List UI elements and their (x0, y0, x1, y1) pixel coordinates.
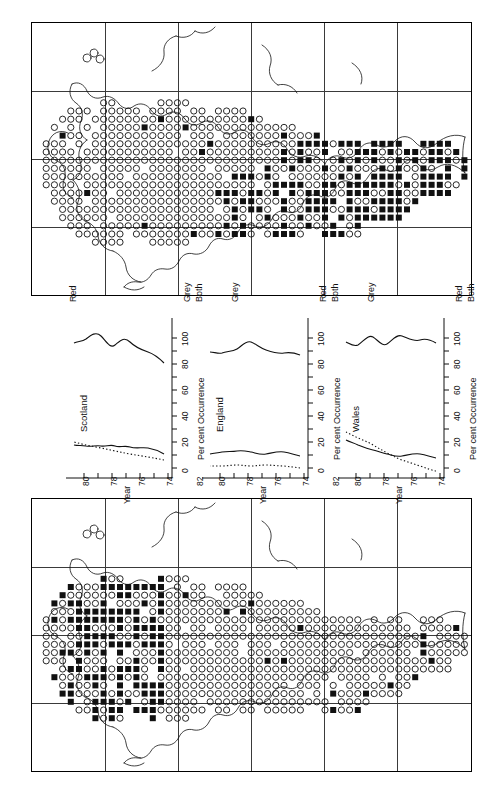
x-tick-label: 82 (331, 477, 341, 486)
x-axis-title: Year (394, 486, 404, 504)
x-axis-title: Year (122, 486, 132, 504)
chart-title-wales: Wales (350, 406, 361, 432)
y-tick-label: 80 (180, 360, 190, 369)
x-tick-label: 76 (137, 477, 147, 486)
map-gridline (32, 703, 471, 704)
map-gridline (32, 159, 471, 160)
series-label-both: Both (194, 283, 204, 302)
map-gridline (32, 567, 471, 568)
series-label-red: Red (318, 285, 328, 302)
x-tick-label: 80 (81, 477, 91, 486)
series-label-both: Both (330, 283, 340, 302)
x-tick-label: 74 (437, 477, 447, 486)
x-tick-label: 78 (109, 477, 119, 486)
chart-england: 0 20 40 60 80 100 Per cent Occurrence 74… (196, 308, 316, 488)
x-tick-label: 80 (353, 477, 363, 486)
figure-root: Red squirrel (0, 0, 500, 792)
chart-wales: 0 20 40 60 80 100 Per cent Occurrence 74… (332, 308, 452, 488)
y-tick-label: 60 (316, 386, 326, 395)
y-tick-label: 20 (180, 438, 190, 447)
x-tick-label: 82 (195, 477, 205, 486)
y-tick-label: 0 (180, 468, 190, 473)
chart-title-scotland: Scotland (78, 395, 89, 432)
y-tick-label: 40 (452, 412, 462, 421)
map-gridline (32, 91, 471, 92)
map-panel-grey-squirrel: Grey squirrel (31, 22, 472, 296)
x-tick-label: 80 (217, 477, 227, 486)
series-label-both: Both (466, 283, 476, 302)
map-panel-red-squirrel: Red squirrel (31, 498, 472, 772)
x-axis-title: Year (258, 486, 268, 504)
chart-wales-canvas (332, 308, 452, 488)
x-tick-label: 76 (409, 477, 419, 486)
map-gridline (32, 227, 471, 228)
map-gridline (32, 635, 471, 636)
x-tick-label: 78 (245, 477, 255, 486)
y-tick-label: 80 (316, 360, 326, 369)
y-tick-label: 40 (316, 412, 326, 421)
y-tick-label: 20 (452, 438, 462, 447)
y-tick-label: 0 (316, 468, 326, 473)
chart-scotland: 0 20 40 60 80 100 Per cent Occurrence 74… (60, 308, 180, 488)
series-label-red: Red (68, 285, 78, 302)
chart-title-england: England (214, 397, 225, 432)
y-axis-title: Per cent Occurrence (468, 377, 478, 460)
x-tick-label: 74 (165, 477, 175, 486)
series-label-red: Red (454, 285, 464, 302)
y-tick-label: 80 (452, 360, 462, 369)
x-tick-label: 74 (301, 477, 311, 486)
series-label-grey: Grey (366, 282, 376, 302)
y-tick-label: 0 (452, 468, 462, 473)
y-tick-label: 40 (180, 412, 190, 421)
y-tick-label: 20 (316, 438, 326, 447)
x-tick-label: 78 (381, 477, 391, 486)
y-tick-label: 60 (452, 386, 462, 395)
y-tick-label: 100 (180, 332, 190, 346)
series-label-grey: Grey (182, 282, 192, 302)
y-tick-label: 60 (180, 386, 190, 395)
series-label-grey: Grey (230, 282, 240, 302)
x-tick-label: 76 (273, 477, 283, 486)
y-tick-label: 100 (452, 332, 462, 346)
y-tick-label: 100 (316, 332, 326, 346)
